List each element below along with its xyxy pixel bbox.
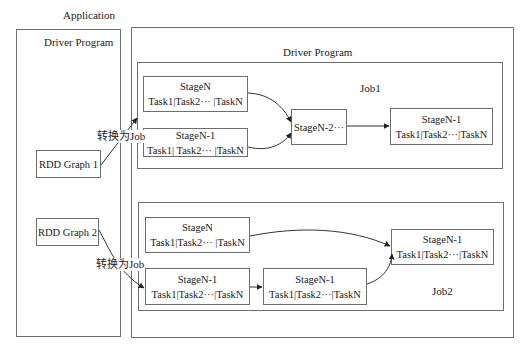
stage-name: StageN xyxy=(180,79,211,94)
rdd-graph-2-label: RDD Graph 2 xyxy=(38,225,97,240)
convert-to-job-label-1: 转换为Job xyxy=(96,130,146,143)
stage-tasks: Task1|Task2··· |TaskN xyxy=(148,94,242,109)
stage-name: StageN xyxy=(182,220,213,235)
job2-stage-n-1-b: StageN-1 Task1|Task2···|TaskN xyxy=(263,268,367,305)
stage-name: StageN-2··· xyxy=(294,120,344,135)
stage-name: StageN-1 xyxy=(295,272,335,287)
stage-tasks: Task1|Task2··· |TaskN xyxy=(150,235,244,250)
application-title: Application xyxy=(63,9,115,22)
right-driver-program-title: Driver Program xyxy=(283,46,352,59)
left-driver-program-title: Driver Program xyxy=(44,36,113,49)
stage-tasks: Task1| Task2··· |TaskN xyxy=(147,143,244,158)
stage-tasks: Task1|Task2···|TaskN xyxy=(396,127,488,142)
stage-tasks: Task1|Task2···|TaskN xyxy=(269,287,361,302)
job1-stage-n: StageN Task1|Task2··· |TaskN xyxy=(143,76,248,112)
stage-name: StageN-1 xyxy=(176,128,216,143)
stage-name: StageN-1 xyxy=(178,272,218,287)
job1-stage-n-2: StageN-2··· xyxy=(291,109,347,145)
rdd-graph-1: RDD Graph 1 xyxy=(36,150,101,178)
stage-name: StageN-1 xyxy=(423,232,463,247)
job2-stage-n-1-a: StageN-1 Task1|Task2···|TaskN xyxy=(145,268,250,305)
convert-to-job-label-2: 转换为Job xyxy=(95,258,145,271)
job1-stage-n-1-final: StageN-1 Task1|Task2···|TaskN xyxy=(390,108,493,145)
left-driver-program-box xyxy=(16,29,121,337)
rdd-graph-1-label: RDD Graph 1 xyxy=(39,157,98,172)
job1-label: Job1 xyxy=(360,82,381,95)
job2-label: Job2 xyxy=(432,285,453,298)
stage-name: StageN-1 xyxy=(422,112,462,127)
stage-tasks: Task1|Task2···|TaskN xyxy=(397,247,489,262)
stage-tasks: Task1|Task2···|TaskN xyxy=(152,287,244,302)
rdd-graph-2: RDD Graph 2 xyxy=(36,218,99,246)
job2-stage-n-1-final: StageN-1 Task1|Task2···|TaskN xyxy=(391,229,494,265)
job1-stage-n-1: StageN-1 Task1| Task2··· |TaskN xyxy=(143,128,248,157)
job2-stage-n: StageN Task1|Task2··· |TaskN xyxy=(145,217,250,253)
